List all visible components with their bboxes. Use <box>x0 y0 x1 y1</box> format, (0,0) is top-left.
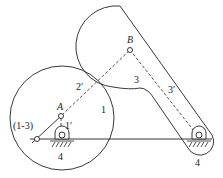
label-body-1: 1 <box>101 105 106 115</box>
label-b: B <box>127 35 133 45</box>
diagram-graphics <box>0 0 223 178</box>
label-ground-left: 4 <box>58 152 63 162</box>
label-a: A <box>57 102 63 112</box>
label-link-1-prime: 1′ <box>65 121 72 131</box>
label-body-3: 3 <box>134 75 139 85</box>
link-2-prime <box>62 50 130 115</box>
label-ground-right: 4 <box>195 158 200 168</box>
instant-center-1-3 <box>35 137 40 142</box>
label-link-3-prime: 3′ <box>168 85 175 95</box>
mechanism-diagram: A B 1 3 2′ 3′ 1′ (1-3) 4 4 <box>0 0 223 178</box>
label-link-2-prime: 2′ <box>76 82 83 92</box>
label-instant-center: (1-3) <box>13 121 33 131</box>
joint-b <box>128 48 133 53</box>
joint-a <box>59 114 64 119</box>
link-3-prime <box>130 50 198 136</box>
